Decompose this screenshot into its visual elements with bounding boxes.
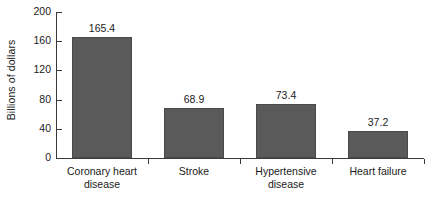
y-axis-title: Billions of dollars (0, 0, 22, 160)
x-axis-category-label: Coronary heartdisease (56, 165, 148, 190)
x-axis-category-label: Stroke (148, 165, 240, 178)
bar-chart-figure: Billions of dollars 04080120160200 165.4… (0, 0, 437, 197)
x-axis-category-label-line: disease (56, 178, 148, 191)
x-axis-tick (148, 159, 149, 164)
x-axis-category-label-line: Coronary heart (56, 165, 148, 178)
x-axis-tick (332, 159, 333, 164)
bar (72, 37, 132, 158)
y-axis-tick-label: 200 (8, 6, 56, 17)
bar (348, 131, 408, 158)
y-axis-tick-label: 40 (8, 123, 56, 134)
x-axis-tick (240, 159, 241, 164)
y-axis-tick-label: 120 (8, 64, 56, 75)
x-axis-category-label-line: disease (240, 178, 332, 191)
x-axis-category-label: Hypertensivedisease (240, 165, 332, 190)
x-axis-tick (424, 159, 425, 164)
y-axis-title-text: Billions of dollars (5, 40, 17, 121)
bar-value-label: 73.4 (256, 89, 316, 101)
x-axis-category-label-line: Hypertensive (240, 165, 332, 178)
bar-value-label: 165.4 (72, 22, 132, 34)
x-axis-category-label: Heart failure (332, 165, 424, 178)
y-axis-tick-label: 160 (8, 35, 56, 46)
y-axis-tick (57, 158, 62, 159)
y-axis-tick-label: 80 (8, 94, 56, 105)
x-axis-category-label-line: Stroke (148, 165, 240, 178)
bar-value-label: 68.9 (164, 93, 224, 105)
x-axis-category-label-line: Heart failure (332, 165, 424, 178)
y-axis-tick-label: 0 (8, 152, 56, 163)
bar-value-label: 37.2 (348, 116, 408, 128)
bar (256, 104, 316, 158)
bar (164, 108, 224, 158)
